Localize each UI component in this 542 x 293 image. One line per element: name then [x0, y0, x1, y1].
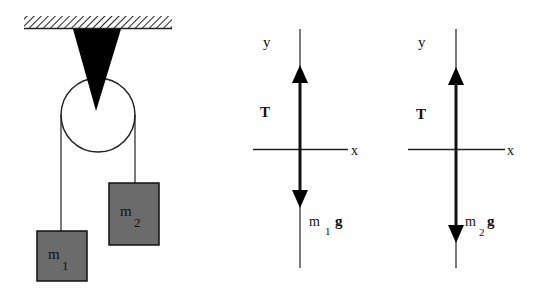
- mass-1-subscript: 1: [62, 258, 69, 273]
- atwood-machine-diagram: m 1 m 2 y x T m 1 g y x T m 2 g: [0, 0, 542, 293]
- mass-2-block: m 2: [109, 183, 159, 245]
- tension-arrowhead-icon: [448, 67, 464, 85]
- mass-1-label: m: [48, 246, 60, 262]
- ceiling-support: [24, 16, 172, 29]
- y-axis-label: y: [418, 34, 426, 50]
- mass-1-block: m 1: [37, 231, 87, 281]
- x-axis-label: x: [351, 143, 358, 158]
- weight-label-m: m: [309, 214, 320, 229]
- mass-2-label: m: [120, 203, 132, 219]
- free-body-diagram-mass-1: y x T m 1 g: [253, 29, 358, 268]
- y-axis-label: y: [263, 34, 271, 50]
- mass-2-subscript: 2: [134, 215, 141, 230]
- weight-label-g: g: [335, 213, 343, 229]
- weight-label-subscript: 2: [479, 226, 485, 238]
- weight-label-m: m: [465, 214, 476, 229]
- weight-label-g: g: [487, 213, 495, 229]
- tension-label: T: [416, 106, 426, 122]
- weight-arrowhead-icon: [292, 190, 308, 208]
- weight-arrowhead-icon: [448, 225, 464, 243]
- tension-label: T: [260, 104, 270, 120]
- weight-label-subscript: 1: [325, 225, 331, 237]
- free-body-diagram-mass-2: y x T m 2 g: [408, 29, 514, 268]
- x-axis-label: x: [507, 143, 514, 158]
- tension-arrowhead-icon: [292, 65, 308, 83]
